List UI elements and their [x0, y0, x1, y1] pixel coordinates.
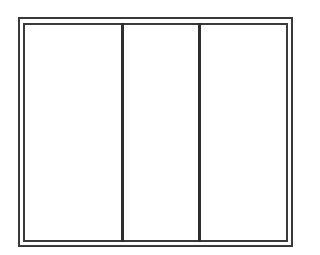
panel-divider-1	[121, 23, 124, 242]
panel-middle: middle	[124, 25, 198, 240]
panel-divider-2	[198, 23, 201, 242]
panel-left: left	[25, 25, 121, 240]
panel-right: right	[201, 25, 286, 240]
